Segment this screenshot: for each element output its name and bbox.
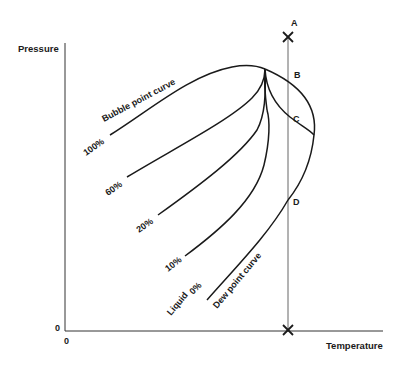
point-d-label: D (293, 197, 300, 207)
x-origin-label: 0 (64, 336, 69, 346)
quality-line-20 (158, 69, 265, 215)
dew-curve-label: Dew point curve (211, 251, 263, 311)
y-origin-label: 0 (55, 323, 60, 333)
quality-label-0: 0% (187, 280, 203, 296)
quality-label-60: 60% (103, 179, 123, 198)
liquid-label: Liquid (165, 290, 190, 317)
y-axis-label: Pressure (18, 43, 59, 54)
quality-line-60 (127, 69, 265, 177)
envelope-right-arc (265, 69, 315, 200)
dew-point-curve (207, 200, 288, 300)
point-b-label: B (294, 70, 301, 80)
quality-line-inner (265, 69, 314, 135)
point-a-label: A (291, 18, 298, 28)
phase-diagram: Pressure Temperature 0 0 A B C D Bubble … (0, 0, 407, 366)
quality-label-20: 20% (134, 216, 154, 235)
x-axis-label: Temperature (326, 340, 383, 351)
quality-label-100: 100% (81, 136, 106, 157)
point-c-label: C (293, 114, 300, 124)
quality-label-10: 10% (163, 255, 183, 274)
